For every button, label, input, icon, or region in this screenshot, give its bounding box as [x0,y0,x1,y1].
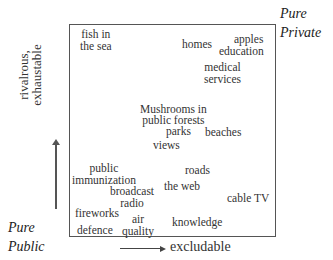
item-medical-services: medical services [204,61,241,85]
pure-private-label: Pure Private [280,4,321,42]
item-mushrooms-in-public-forests: Mushrooms in public forests [140,104,207,126]
item-homes: homes [182,38,212,50]
item-the-web: the web [164,180,200,192]
item-line: medical [204,61,241,73]
item-defence: defence [77,224,113,236]
up-arrowhead-icon [52,139,60,145]
item-parks: parks [166,125,191,137]
item-roads: roads [185,164,210,176]
y-axis-label: rivalrous, exhaustable [17,35,47,115]
item-line: quality [122,225,154,237]
item-fish-in-the-sea: fish in the sea [80,28,112,52]
item-cable-tv: cable TV [227,192,269,204]
item-line: fish in [80,28,112,40]
item-line: air [122,213,154,225]
pure-private-line2: Private [280,23,321,42]
pure-public-line1: Pure [8,218,45,237]
pure-public-line2: Public [8,237,45,256]
item-fireworks: fireworks [75,207,119,219]
item-broadcast-radio: broadcast radio [110,185,154,209]
item-line: broadcast [110,185,154,197]
item-air-quality: air quality [122,213,154,237]
y-axis-line2: exhaustable [30,35,43,115]
item-apples: apples [234,33,263,45]
item-public-immunization: public immunization [72,162,136,186]
item-knowledge: knowledge [172,216,222,228]
pure-public-label: Pure Public [8,218,45,256]
item-line: services [204,73,241,85]
right-arrow-icon [120,248,162,249]
item-line: public [72,162,136,174]
item-education: education [219,45,264,57]
item-views: views [153,139,180,151]
item-beaches: beaches [205,126,241,138]
item-line: the sea [80,40,112,52]
pure-private-line1: Pure [280,4,321,23]
x-axis-label: excludable [170,239,231,255]
right-arrowhead-icon [160,246,166,252]
up-arrow-icon [55,143,57,209]
